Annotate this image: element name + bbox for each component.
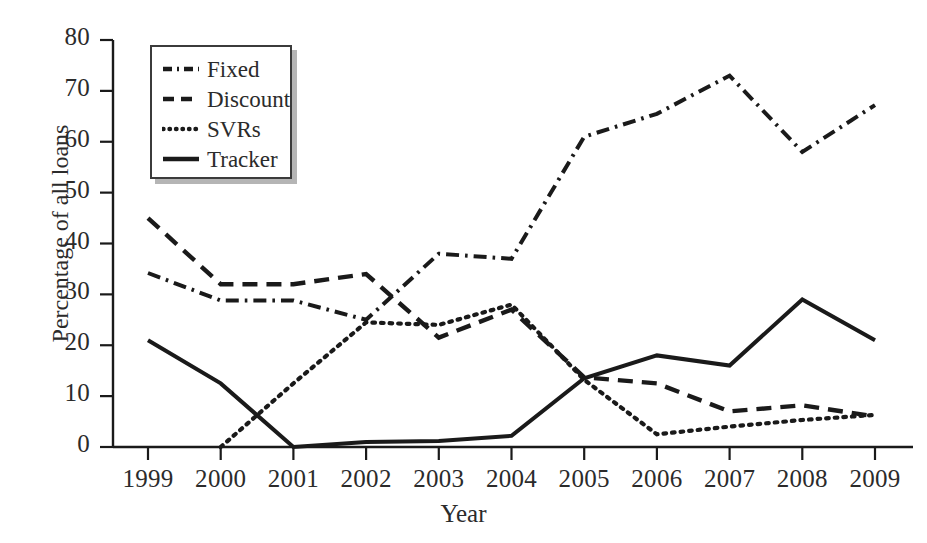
series-line-discount xyxy=(148,218,875,416)
chart-figure: Percentage of all loans Year Fixed Disco… xyxy=(0,0,927,543)
legend-item-fixed: Fixed xyxy=(162,54,290,84)
chart-legend: Fixed Discount SVRs Tracker xyxy=(150,45,292,179)
x-tick-label-2009: 2009 xyxy=(830,465,920,493)
legend-swatch-dotted xyxy=(162,122,200,136)
y-tick-label-80: 80 xyxy=(20,23,90,51)
y-tick-label-30: 30 xyxy=(20,277,90,305)
legend-swatch-solid xyxy=(162,152,200,166)
legend-item-tracker: Tracker xyxy=(162,144,290,174)
legend-label-discount: Discount xyxy=(207,88,290,111)
y-tick-label-10: 10 xyxy=(20,379,90,407)
y-tick-label-20: 20 xyxy=(20,328,90,356)
legend-label-svrs: SVRs xyxy=(207,118,261,141)
y-tick-label-0: 0 xyxy=(20,430,90,458)
legend-swatch-dashed xyxy=(162,92,200,106)
legend-swatch-dash-dot xyxy=(162,62,200,76)
legend-label-tracker: Tracker xyxy=(207,148,278,171)
y-tick-label-40: 40 xyxy=(20,227,90,255)
legend-label-fixed: Fixed xyxy=(207,58,259,81)
y-tick-label-70: 70 xyxy=(20,74,90,102)
y-tick-label-60: 60 xyxy=(20,125,90,153)
legend-item-discount: Discount xyxy=(162,84,290,114)
series-line-svrs xyxy=(221,305,875,447)
line-chart-plot xyxy=(0,0,927,543)
x-axis-label: Year xyxy=(0,500,927,528)
y-tick-label-50: 50 xyxy=(20,176,90,204)
legend-item-svrs: SVRs xyxy=(162,114,290,144)
